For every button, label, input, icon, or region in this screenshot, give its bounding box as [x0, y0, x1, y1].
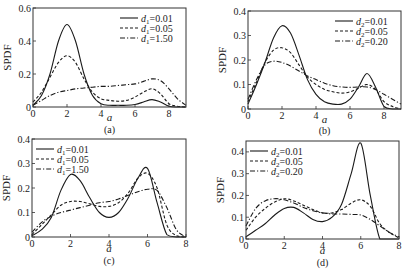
x-tick-label: 0 [246, 110, 251, 121]
panel-label: (b) [319, 125, 331, 137]
x-tick-label: 4 [99, 108, 104, 119]
y-axis-label: SPDF [0, 175, 12, 201]
legend-entry: d2=0.20 [356, 36, 388, 49]
x-tick-label: 2 [65, 108, 70, 119]
series-line-dashed [246, 199, 399, 238]
x-axis-label: a [107, 111, 113, 123]
subplot-d: 0246800.10.20.30.4SPDFa(d)d2=0.01d2=0.05… [214, 141, 402, 269]
x-tick-label: 2 [282, 240, 287, 251]
y-tick-label: 0.4 [232, 146, 245, 157]
series-line-dashdot [33, 79, 186, 105]
y-tick-label: 0.6 [19, 3, 32, 14]
subplot-a: 0246800.20.40.6SPDFa(a)d1=0.01d1=0.05d1=… [1, 3, 186, 137]
x-tick-label: 2 [280, 110, 285, 121]
x-tick-label: 8 [397, 240, 402, 251]
legend-entry: d1=1.50 [141, 33, 173, 46]
y-tick-label: 0.4 [18, 134, 31, 145]
x-tick-label: 6 [358, 240, 363, 251]
y-tick-label: 0 [241, 104, 246, 115]
y-tick-label: 0 [25, 232, 30, 243]
y-tick-label: 0.2 [234, 55, 247, 66]
y-tick-label: 0.1 [18, 207, 31, 218]
x-tick-label: 0 [31, 108, 36, 119]
chart-canvas: 0246800.20.40.6SPDFa(a)d1=0.01d1=0.05d1=… [0, 0, 410, 276]
y-tick-label: 0.2 [18, 183, 31, 194]
y-axis-label: SPDF [214, 177, 226, 203]
y-tick-label: 0.4 [19, 36, 32, 47]
x-axis-label: a [320, 244, 326, 256]
x-tick-label: 6 [145, 238, 150, 249]
x-axis-label: a [106, 242, 112, 254]
series-line-solid [32, 167, 186, 237]
subplot-b: 0246800.10.20.30.4SPDFa(b)d2=0.01d2=0.05… [216, 6, 401, 138]
legend: d1=0.01d1=0.05d1=1.50 [36, 144, 89, 177]
subplot-c: 0246800.10.20.30.4SPDFa(c)d1=0.01d1=0.05… [0, 134, 189, 268]
y-axis-label: SPDF [216, 47, 228, 73]
legend: d2=0.01d2=0.05d2=0.20 [250, 146, 303, 179]
x-tick-label: 8 [382, 110, 387, 121]
y-tick-label: 0.1 [234, 79, 247, 90]
y-tick-label: 0.3 [234, 30, 247, 41]
x-tick-label: 2 [68, 238, 73, 249]
x-tick-label: 6 [348, 110, 353, 121]
y-tick-label: 0 [239, 234, 244, 245]
panel-label: (c) [103, 255, 114, 267]
x-tick-label: 4 [314, 110, 319, 121]
y-tick-label: 0.2 [19, 69, 32, 80]
y-tick-label: 0.4 [234, 6, 247, 17]
x-tick-label: 8 [167, 108, 172, 119]
panel-label: (a) [104, 124, 115, 136]
x-tick-label: 0 [244, 240, 249, 251]
x-tick-label: 8 [184, 238, 189, 249]
legend: d2=0.01d2=0.05d2=0.20 [335, 16, 388, 49]
legend-entry: d2=0.20 [271, 166, 303, 179]
y-tick-label: 0.3 [18, 158, 31, 169]
y-tick-label: 0.3 [232, 168, 245, 179]
series-line-dashed [248, 48, 401, 109]
series-line-dashed [32, 173, 186, 237]
series-line-dashdot [248, 61, 401, 104]
x-tick-label: 6 [133, 108, 138, 119]
y-axis-label: SPDF [1, 44, 13, 70]
panel-label: (d) [317, 257, 329, 269]
series-line-solid [246, 143, 399, 239]
figure: 0246800.20.40.6SPDFa(a)d1=0.01d1=0.05d1=… [0, 0, 410, 276]
x-tick-label: 0 [30, 238, 35, 249]
series-line-dashed [33, 56, 186, 107]
y-tick-label: 0.1 [232, 212, 245, 223]
y-tick-label: 0 [26, 102, 31, 113]
x-axis-label: a [322, 113, 328, 125]
y-tick-label: 0.2 [232, 190, 245, 201]
legend: d1=0.01d1=0.05d1=1.50 [120, 13, 173, 46]
